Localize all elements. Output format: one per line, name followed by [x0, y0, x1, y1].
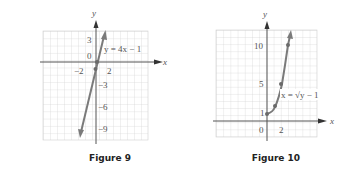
point-3-10	[286, 43, 290, 47]
tick-y-minus-6: −6	[98, 102, 108, 112]
figure-10: y x 10 5 1 0 2 x = √y − 1 Figure 10	[180, 0, 355, 150]
point-2-5	[279, 82, 283, 86]
figure-10-caption: Figure 10	[236, 153, 316, 163]
point-x-intercept	[95, 60, 99, 64]
equation-label: y = 4x − 1	[104, 44, 141, 54]
point-y-intercept	[94, 67, 98, 71]
point-0-1	[265, 112, 269, 116]
tick-x-2: 2	[279, 125, 284, 135]
tick-x-0: 0	[259, 125, 264, 135]
point-1-2	[273, 104, 277, 108]
figure-9: y x 3 0 −2 2 −3 −6 −9 y = 4x − 1 Figure …	[0, 0, 180, 150]
x-axis-label: x	[329, 116, 334, 126]
y-axis-arrow-icon	[94, 20, 99, 28]
tick-y-3: 3	[87, 35, 92, 45]
y-axis-label: y	[91, 8, 96, 18]
tick-y-0: 0	[87, 51, 92, 61]
x-axis-label: x	[162, 57, 167, 67]
equation-label: x = √y − 1	[281, 90, 319, 100]
tick-y-10: 10	[254, 41, 264, 51]
tick-x-minus-2: −2	[74, 66, 84, 76]
tick-y-minus-9: −9	[98, 124, 108, 134]
tick-y-1: 1	[260, 108, 265, 118]
figure-10-plot: y x 10 5 1 0 2 x = √y − 1	[180, 0, 355, 150]
figure-9-caption: Figure 9	[70, 153, 150, 163]
figure-9-plot: y x 3 0 −2 2 −3 −6 −9 y = 4x − 1	[0, 0, 180, 150]
x-axis-arrow-icon	[154, 60, 163, 65]
tick-y-5: 5	[259, 79, 264, 89]
x-axis-arrow-icon	[318, 119, 327, 124]
y-axis-label: y	[262, 9, 267, 19]
tick-y-minus-3: −3	[98, 80, 108, 90]
y-axis-arrow-icon	[265, 21, 270, 29]
tick-x-2: 2	[107, 66, 112, 76]
